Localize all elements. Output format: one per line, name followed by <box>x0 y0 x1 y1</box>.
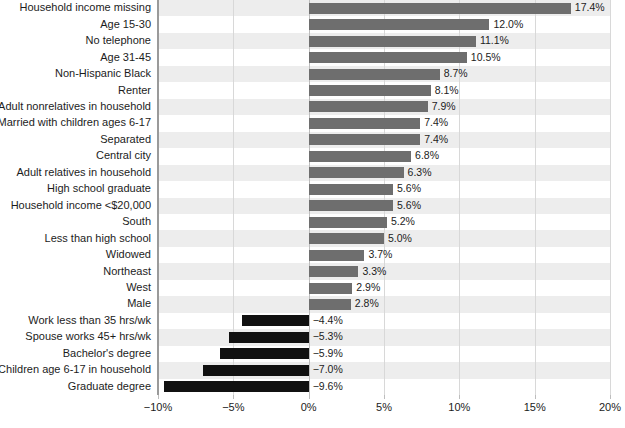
bar[interactable] <box>309 283 353 294</box>
category-label: South <box>122 216 151 227</box>
bar-value-label: 12.0% <box>493 19 523 30</box>
x-tick-mark <box>309 395 310 399</box>
category-label: Age 31-45 <box>100 52 151 63</box>
x-tick-mark <box>233 395 234 399</box>
bar[interactable] <box>309 101 428 112</box>
bar[interactable] <box>309 184 393 195</box>
bar-value-label: 2.8% <box>355 298 379 309</box>
bar[interactable] <box>309 217 387 228</box>
bar[interactable] <box>309 250 365 261</box>
category-label: Children age 6-17 in household <box>0 364 151 375</box>
bar[interactable] <box>203 365 308 376</box>
bar-value-label: 5.6% <box>397 183 421 194</box>
bar-value-label: 8.7% <box>444 68 468 79</box>
x-tick-label: −5% <box>222 401 244 413</box>
bar-value-label: 5.6% <box>397 200 421 211</box>
bar[interactable] <box>309 52 467 63</box>
category-label-column: Household income missingAge 15-30No tele… <box>0 0 155 395</box>
x-tick-mark <box>610 395 611 399</box>
bar-value-label: −7.0% <box>313 364 343 375</box>
bar[interactable] <box>309 233 384 244</box>
bar[interactable] <box>309 299 351 310</box>
category-label: Adult nonrelatives in household <box>0 101 151 112</box>
bar-value-label: −4.4% <box>313 315 343 326</box>
bar-value-label: 8.1% <box>435 85 459 96</box>
bar-value-label: −5.9% <box>313 348 343 359</box>
bar-value-label: 17.4% <box>575 2 605 13</box>
bar-value-label: 3.3% <box>362 266 386 277</box>
x-tick-label: 15% <box>524 401 546 413</box>
category-label: West <box>126 282 151 293</box>
category-label: Separated <box>100 134 151 145</box>
category-label: No telephone <box>86 35 151 46</box>
category-label: Widowed <box>106 249 151 260</box>
bar[interactable] <box>229 332 309 343</box>
category-label: Household income missing <box>20 2 151 13</box>
bar[interactable] <box>242 315 308 326</box>
horizontal-bar-chart: Household income missingAge 15-30No tele… <box>0 0 625 428</box>
bar[interactable] <box>220 348 309 359</box>
gridline <box>610 0 611 395</box>
category-label: Northeast <box>103 266 151 277</box>
bar[interactable] <box>164 381 309 392</box>
category-label: Renter <box>118 85 151 96</box>
gridline <box>535 0 536 395</box>
y-axis-spine <box>157 0 159 395</box>
category-label: Household income <$20,000 <box>11 200 151 211</box>
bar-value-label: 7.9% <box>432 101 456 112</box>
category-label: Spouse works 45+ hrs/wk <box>25 331 151 342</box>
category-label: Less than high school <box>45 233 151 244</box>
bar-value-label: 7.4% <box>424 134 448 145</box>
bar-value-label: 3.7% <box>368 249 392 260</box>
category-label: Married with children ages 6-17 <box>0 117 151 128</box>
category-label: Central city <box>96 150 151 161</box>
x-tick-label: 5% <box>376 401 392 413</box>
bar[interactable] <box>309 36 476 47</box>
bar-value-label: 6.8% <box>415 150 439 161</box>
x-tick-label: 20% <box>599 401 621 413</box>
category-label: Age 15-30 <box>100 19 151 30</box>
bar[interactable] <box>309 118 420 129</box>
bar[interactable] <box>309 69 440 80</box>
bar-value-label: 11.1% <box>480 35 509 46</box>
bar-value-label: 5.0% <box>388 233 412 244</box>
bar-value-label: −5.3% <box>313 331 343 342</box>
bar-value-label: −9.6% <box>313 381 343 392</box>
category-label: Work less than 35 hrs/wk <box>28 315 151 326</box>
category-label: Non-Hispanic Black <box>55 68 151 79</box>
bar[interactable] <box>309 3 571 14</box>
plot-area: 17.4%12.0%11.1%10.5%8.7%8.1%7.9%7.4%7.4%… <box>158 0 610 395</box>
bar[interactable] <box>309 167 404 178</box>
x-tick-mark <box>158 395 159 399</box>
x-axis: −10%−5%0%5%10%15%20% <box>158 395 610 428</box>
bar[interactable] <box>309 200 393 211</box>
bar[interactable] <box>309 266 359 277</box>
bar-value-label: 5.2% <box>391 216 415 227</box>
category-label: Bachelor's degree <box>63 348 151 359</box>
bar[interactable] <box>309 85 431 96</box>
x-tick-mark <box>384 395 385 399</box>
bar[interactable] <box>309 19 490 30</box>
category-label: High school graduate <box>47 183 151 194</box>
bar-value-label: 7.4% <box>424 117 448 128</box>
category-label: Graduate degree <box>68 381 151 392</box>
x-tick-label: 10% <box>448 401 470 413</box>
bar-value-label: 6.3% <box>408 167 432 178</box>
category-label: Male <box>127 298 151 309</box>
x-tick-label: 0% <box>301 401 317 413</box>
x-tick-mark <box>459 395 460 399</box>
bar[interactable] <box>309 151 411 162</box>
x-tick-label: −10% <box>144 401 172 413</box>
bar-value-label: 10.5% <box>471 52 501 63</box>
x-tick-mark <box>535 395 536 399</box>
category-label: Adult relatives in household <box>16 167 151 178</box>
bar-value-label: 2.9% <box>356 282 380 293</box>
bar[interactable] <box>309 134 420 145</box>
